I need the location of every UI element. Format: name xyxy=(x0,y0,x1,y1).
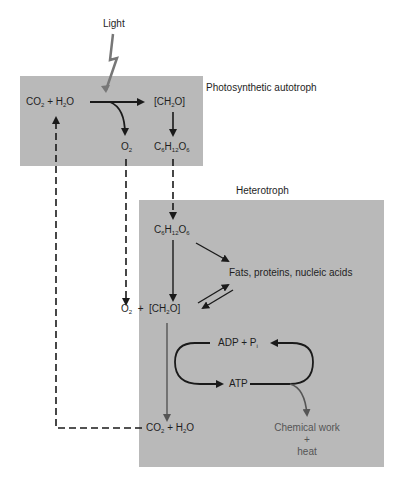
autotroph-glucose: C6H12O6 xyxy=(154,141,190,156)
heterotroph-oxygen-carbohydrate: O2 + [CH2O] xyxy=(121,303,180,318)
work-label: Chemical work + heat xyxy=(272,422,342,458)
autotroph-carbohydrate: [CH2O] xyxy=(154,96,185,111)
heterotroph-products: CO2 + H2O xyxy=(146,422,194,437)
autotroph-title: Photosynthetic autotroph xyxy=(206,82,317,93)
atp-label: ATP xyxy=(229,378,248,390)
adp-label: ADP + Pi xyxy=(218,337,258,352)
autotroph-reactants: CO2 + H2O xyxy=(26,96,74,111)
arrows-layer xyxy=(0,0,401,485)
light-label: Light xyxy=(103,18,125,30)
heterotroph-glucose: C6H12O6 xyxy=(154,224,190,239)
heterotroph-title: Heterotroph xyxy=(236,185,289,196)
macromolecules-label: Fats, proteins, nucleic acids xyxy=(229,267,352,279)
autotroph-oxygen: O2 xyxy=(121,141,132,156)
lightning-icon xyxy=(106,34,117,90)
